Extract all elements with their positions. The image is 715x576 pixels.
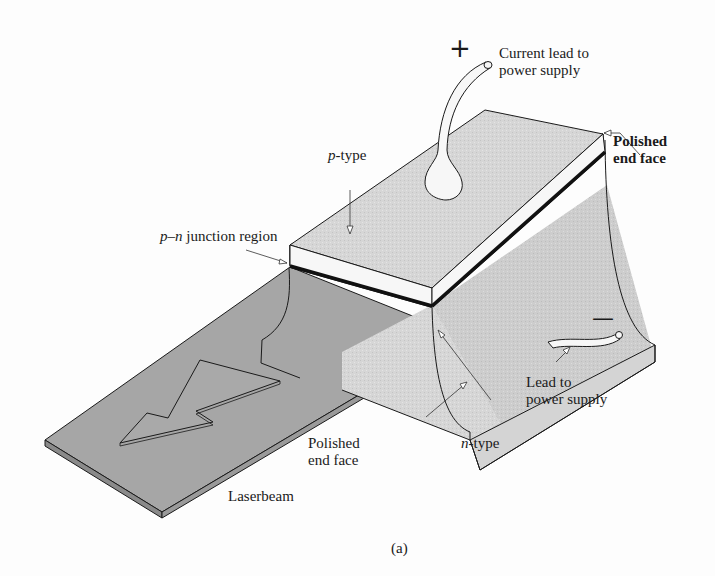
label-current-lead: Current lead to power supply [499,45,589,79]
label-p-type: p-type [328,147,366,164]
label-lead-to-power-supply: Lead to power supply [526,374,607,408]
minus-sign: — [592,305,614,331]
label-polished-end-face-bottom: Polished end face [308,435,360,469]
figure-caption: (a) [391,540,408,557]
label-n-type: n-type [461,435,499,452]
laser-diode-diagram [0,0,715,576]
label-laserbeam: Laserbeam [228,488,294,505]
label-pn-junction: p–n junction region [160,228,277,245]
plus-sign: + [449,35,471,61]
label-polished-end-face-top: Polished end face [613,133,667,167]
